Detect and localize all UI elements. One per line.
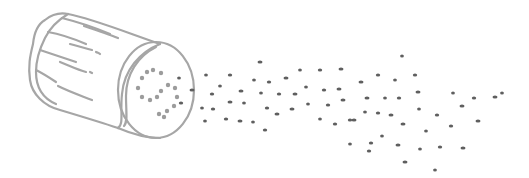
- salt-grain: [460, 104, 465, 107]
- salt-grain: [376, 111, 380, 114]
- salt-grain: [275, 112, 280, 115]
- salt-grain: [363, 110, 367, 113]
- salt-grain: [242, 101, 246, 104]
- salt-grain: [259, 91, 263, 94]
- salt-grain: [238, 119, 243, 122]
- salt-grain: [418, 147, 422, 150]
- shaker-hole: [148, 98, 152, 102]
- salt-grain: [203, 119, 207, 122]
- shaker-hole: [155, 95, 159, 99]
- salt-grain: [369, 141, 373, 144]
- salt-grain: [204, 73, 208, 76]
- salt-grain: [277, 92, 281, 95]
- salt-grain: [252, 78, 256, 81]
- salt-shaker-illustration: [0, 0, 529, 178]
- salt-grain: [376, 73, 380, 76]
- salt-grain: [367, 149, 371, 152]
- salt-grain: [416, 90, 421, 93]
- shaker-hole: [140, 76, 144, 80]
- salt-grain: [239, 89, 244, 92]
- salt-grain: [224, 117, 228, 120]
- shaker-body: [29, 13, 194, 138]
- salt-grain: [304, 85, 308, 88]
- salt-grain: [210, 92, 214, 95]
- salt-grain: [218, 84, 222, 87]
- salt-grain: [333, 122, 337, 125]
- salt-grain: [341, 98, 346, 101]
- salt-grain: [348, 142, 352, 145]
- salt-grain: [383, 96, 387, 99]
- shaker-hole: [151, 68, 155, 72]
- salt-grain: [348, 118, 352, 121]
- salt-grain: [438, 145, 442, 148]
- shaker-hole: [173, 86, 177, 90]
- salt-grain: [433, 168, 437, 171]
- salt-grain: [500, 91, 504, 94]
- salt-grain: [265, 106, 269, 109]
- salt-grain: [298, 68, 302, 71]
- salt-grain: [177, 76, 181, 79]
- salt-grain: [306, 102, 310, 105]
- salt-grain: [339, 67, 344, 70]
- salt-grain: [179, 101, 183, 104]
- shaker-hole: [166, 83, 170, 87]
- salt-grain: [337, 87, 342, 90]
- salt-grain: [258, 60, 263, 63]
- shaker-hole: [162, 115, 166, 119]
- salt-grain: [200, 106, 204, 109]
- salt-grain: [228, 100, 233, 103]
- shaker-hole: [136, 86, 140, 90]
- shaker-hole: [175, 95, 179, 99]
- salt-grains: [177, 54, 504, 171]
- shaker-hole: [159, 89, 163, 93]
- salt-grain: [322, 88, 326, 91]
- shaker-hole: [140, 95, 144, 99]
- salt-grain: [190, 88, 195, 91]
- shaker-hole: [165, 109, 169, 113]
- salt-grain: [290, 107, 295, 110]
- salt-grain: [284, 76, 289, 79]
- salt-grain: [472, 96, 476, 99]
- salt-grain: [263, 128, 267, 131]
- salt-grain: [380, 134, 384, 137]
- salt-grain: [251, 120, 255, 123]
- salt-grain: [461, 146, 466, 149]
- salt-grain: [365, 96, 370, 99]
- salt-grain: [476, 119, 481, 122]
- salt-grain: [403, 160, 408, 163]
- salt-grain: [318, 68, 322, 71]
- salt-grain: [293, 92, 298, 95]
- salt-grain: [493, 95, 498, 98]
- salt-grain: [397, 96, 401, 99]
- shaker-holes: [136, 68, 179, 119]
- salt-grain: [352, 118, 357, 121]
- salt-grain: [326, 103, 330, 106]
- salt-grain: [424, 129, 428, 132]
- salt-grain: [359, 80, 364, 83]
- salt-grain: [318, 117, 322, 120]
- salt-grain: [211, 107, 215, 110]
- shaker-hole: [172, 104, 176, 108]
- shaker-hole: [157, 112, 161, 116]
- salt-grain: [228, 73, 232, 76]
- salt-grain: [393, 78, 397, 81]
- salt-grain: [396, 143, 401, 146]
- illustration-svg: [0, 0, 529, 178]
- salt-grain: [413, 73, 417, 76]
- shaker-hole: [159, 71, 163, 75]
- salt-grain: [389, 113, 394, 116]
- salt-grain: [401, 122, 406, 125]
- salt-grain: [400, 54, 404, 57]
- salt-grain: [267, 80, 271, 83]
- salt-grain: [417, 107, 421, 110]
- shaker-hole: [145, 70, 149, 74]
- salt-grain: [449, 124, 453, 127]
- salt-grain: [451, 91, 455, 94]
- salt-grain: [435, 113, 439, 116]
